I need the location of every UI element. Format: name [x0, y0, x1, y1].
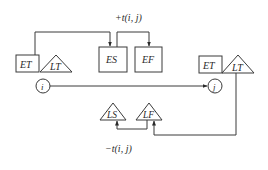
ef-label: EF [141, 54, 155, 65]
end-lt-label: LT [231, 62, 244, 73]
lt-to-lf-connector [154, 73, 236, 135]
forward-duration-label: +t(i, j) [115, 12, 142, 24]
start-node-group: ET LT i [16, 55, 72, 93]
ls-label: LS [106, 110, 117, 120]
start-lt-label: LT [49, 61, 62, 72]
lf-label: LF [142, 110, 154, 120]
es-to-ef-connector [117, 32, 149, 47]
early-times-group: ES EF [99, 47, 162, 72]
start-et-label: ET [19, 59, 33, 70]
backward-duration-label: −t(i, j) [105, 143, 132, 155]
end-node-group: ET LT j [199, 55, 254, 93]
late-times-group: LS LF [100, 103, 162, 120]
end-et-label: ET [202, 60, 216, 71]
es-label: ES [105, 54, 117, 65]
cpm-diagram: +t(i, j) ET LT i ES EF ET LT j [0, 0, 268, 170]
lf-to-ls-connector [117, 120, 147, 129]
end-node-label: j [212, 82, 216, 92]
